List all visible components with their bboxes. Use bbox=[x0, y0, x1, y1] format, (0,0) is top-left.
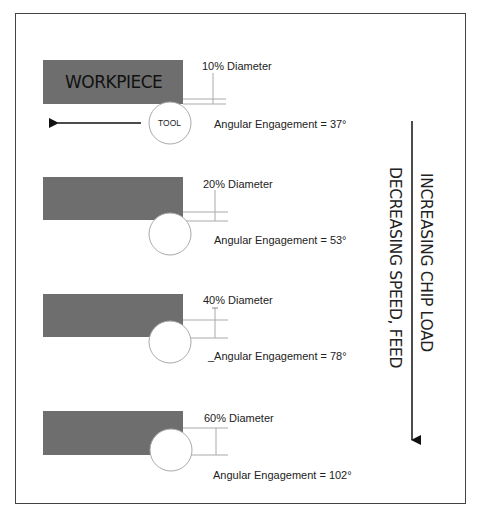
tool-label: TOOL bbox=[158, 118, 181, 128]
engagement-label: Angular Engagement = 102° bbox=[213, 469, 352, 481]
tool-circle bbox=[149, 213, 191, 255]
side-label-chip-load: INCREASING CHIP LOAD bbox=[417, 173, 435, 352]
panel-10pct: WORKPIECE TOOL 10% Diameter Angular Enga… bbox=[43, 60, 347, 144]
panel-20pct: 20% Diameter Angular Engagement = 53° bbox=[43, 177, 347, 255]
side-label-speed-feed: DECREASING SPEED, FEED bbox=[386, 167, 404, 368]
engagement-diagram: WORKPIECE TOOL 10% Diameter Angular Enga… bbox=[0, 0, 482, 518]
diameter-label: 20% Diameter bbox=[203, 178, 273, 190]
engagement-label: Angular Engagement = 53° bbox=[214, 234, 347, 246]
tool-circle bbox=[150, 429, 192, 471]
engagement-label: Angular Engagement = 37° bbox=[214, 118, 347, 130]
engagement-label: _Angular Engagement = 78° bbox=[207, 350, 347, 362]
diameter-label: 40% Diameter bbox=[203, 294, 273, 306]
tool-circle bbox=[149, 321, 191, 363]
panel-60pct: 60% Diameter Angular Engagement = 102° bbox=[43, 411, 352, 481]
workpiece-label: WORKPIECE bbox=[65, 72, 162, 92]
diameter-label: 60% Diameter bbox=[204, 412, 274, 424]
workpiece-block bbox=[43, 177, 183, 220]
panel-40pct: 40% Diameter _Angular Engagement = 78° bbox=[43, 294, 347, 363]
diameter-label: 10% Diameter bbox=[202, 60, 272, 72]
